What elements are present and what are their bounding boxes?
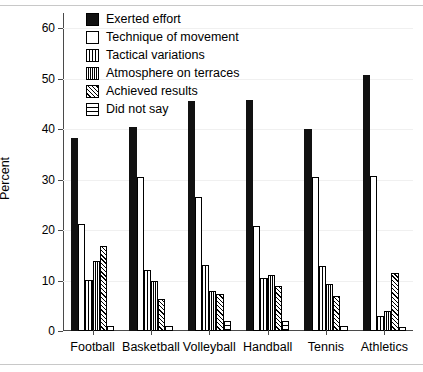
legend-label: Tactical variations xyxy=(106,49,205,62)
bar xyxy=(158,299,165,331)
bar xyxy=(100,246,107,331)
bar xyxy=(370,176,377,331)
y-tick-label: 0 xyxy=(48,324,55,338)
bar-chart-figure: Percent 0102030405060 FootballBasketball… xyxy=(0,0,423,372)
bar-group xyxy=(363,13,406,331)
bar xyxy=(253,226,260,331)
y-axis-title: Percent xyxy=(0,157,12,200)
legend-swatch-icon xyxy=(86,67,99,80)
gridline xyxy=(63,180,413,181)
y-tick-mark xyxy=(58,129,63,130)
x-tick-label: Football xyxy=(70,340,114,354)
bar xyxy=(78,224,85,331)
gridline xyxy=(63,129,413,130)
y-tick-label: 10 xyxy=(42,274,55,288)
bar xyxy=(340,326,347,331)
x-tick-mark xyxy=(209,330,210,335)
legend-item: Tactical variations xyxy=(86,48,239,63)
bar xyxy=(399,327,406,331)
legend-swatch-icon xyxy=(86,85,99,98)
bar xyxy=(93,261,100,331)
legend-label: Did not say xyxy=(106,103,169,116)
bar xyxy=(151,281,158,331)
bar xyxy=(312,177,319,331)
bar xyxy=(71,138,78,331)
y-tick-mark xyxy=(58,28,63,29)
bar xyxy=(268,275,275,331)
legend-item: Technique of movement xyxy=(86,30,239,45)
bar xyxy=(85,280,92,331)
x-tick-label: Volleyball xyxy=(183,340,236,354)
y-tick-mark xyxy=(58,230,63,231)
bar xyxy=(377,316,384,331)
legend-label: Technique of movement xyxy=(106,31,239,44)
bar-group xyxy=(304,13,347,331)
bar xyxy=(275,286,282,331)
legend-item: Atmosphere on terraces xyxy=(86,66,239,81)
y-tick-mark xyxy=(58,331,63,332)
bar xyxy=(107,326,114,331)
bar xyxy=(224,321,231,331)
bar xyxy=(326,284,333,331)
legend-item: Achieved results xyxy=(86,84,239,99)
bottom-divider xyxy=(0,364,423,365)
legend-label: Atmosphere on terraces xyxy=(106,67,239,80)
x-tick-mark xyxy=(326,330,327,335)
bar xyxy=(137,177,144,331)
bar xyxy=(165,326,172,331)
x-tick-label: Handball xyxy=(243,340,292,354)
y-tick-label: 30 xyxy=(42,173,55,187)
y-tick-label: 20 xyxy=(42,223,55,237)
x-tick-mark xyxy=(151,330,152,335)
gridline xyxy=(63,230,413,231)
x-tick-label: Tennis xyxy=(308,340,344,354)
x-tick-mark xyxy=(384,330,385,335)
x-tick-mark xyxy=(268,330,269,335)
legend-item: Exerted effort xyxy=(86,12,239,27)
bar xyxy=(246,100,253,331)
bar xyxy=(144,270,151,331)
y-tick-mark xyxy=(58,79,63,80)
legend-swatch-icon xyxy=(86,13,99,26)
top-divider xyxy=(0,5,423,6)
bar xyxy=(319,266,326,331)
bar xyxy=(391,273,398,331)
x-tick-label: Basketball xyxy=(122,340,180,354)
bar xyxy=(333,296,340,331)
bar xyxy=(216,294,223,331)
bar xyxy=(129,127,136,331)
bar xyxy=(209,291,216,331)
x-tick-mark xyxy=(93,330,94,335)
bar xyxy=(260,278,267,331)
legend: Exerted effortTechnique of movementTacti… xyxy=(86,12,239,117)
y-tick-mark xyxy=(58,180,63,181)
bar xyxy=(188,101,195,331)
bar-group xyxy=(246,13,289,331)
bar xyxy=(195,197,202,331)
y-tick-label: 50 xyxy=(42,72,55,86)
legend-swatch-icon xyxy=(86,103,99,116)
legend-item: Did not say xyxy=(86,102,239,117)
gridline xyxy=(63,281,413,282)
y-tick-mark xyxy=(58,281,63,282)
y-tick-label: 60 xyxy=(42,21,55,35)
bar xyxy=(384,311,391,331)
bar xyxy=(304,129,311,331)
legend-swatch-icon xyxy=(86,49,99,62)
bar xyxy=(282,321,289,331)
bar xyxy=(363,75,370,331)
legend-label: Achieved results xyxy=(106,85,198,98)
legend-swatch-icon xyxy=(86,31,99,44)
x-tick-label: Athletics xyxy=(361,340,408,354)
bar xyxy=(202,265,209,331)
legend-label: Exerted effort xyxy=(106,13,181,26)
y-tick-label: 40 xyxy=(42,122,55,136)
